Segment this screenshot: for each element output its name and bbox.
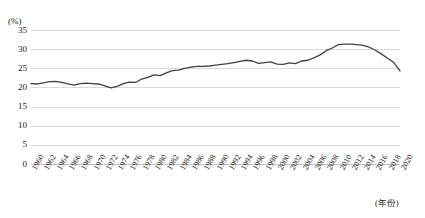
x-tick-label-1976: 1976 <box>128 153 144 171</box>
x-axis-unit-label: (年份) <box>375 196 399 208</box>
x-tick-label-1988: 1988 <box>202 153 218 171</box>
x-tick-label-1984: 1984 <box>178 153 194 171</box>
x-tick-label-1990: 1990 <box>215 153 231 171</box>
x-tick-label-1982: 1982 <box>165 153 181 171</box>
x-tick-label-2018: 2018 <box>387 153 403 171</box>
line-chart: (%) 05101520253035 196019621964196619681… <box>0 0 425 218</box>
x-tick-label-1996: 1996 <box>251 153 267 171</box>
x-tick-label-1998: 1998 <box>264 153 280 171</box>
x-tick-label-1962: 1962 <box>42 153 58 171</box>
x-tick-label-1978: 1978 <box>141 153 157 171</box>
x-tick-label-1968: 1968 <box>79 153 95 171</box>
x-tick-label-2010: 2010 <box>338 153 354 171</box>
x-tick-label-2004: 2004 <box>301 153 317 171</box>
x-tick-label-2016: 2016 <box>374 153 390 171</box>
x-tick-label-2002: 2002 <box>288 153 304 171</box>
x-tick-label-2008: 2008 <box>325 153 341 171</box>
x-axis-tick-labels: 1960196219641966196819701972197419761978… <box>0 0 425 218</box>
x-tick-label-1964: 1964 <box>55 153 71 171</box>
x-tick-label-1970: 1970 <box>92 153 108 171</box>
